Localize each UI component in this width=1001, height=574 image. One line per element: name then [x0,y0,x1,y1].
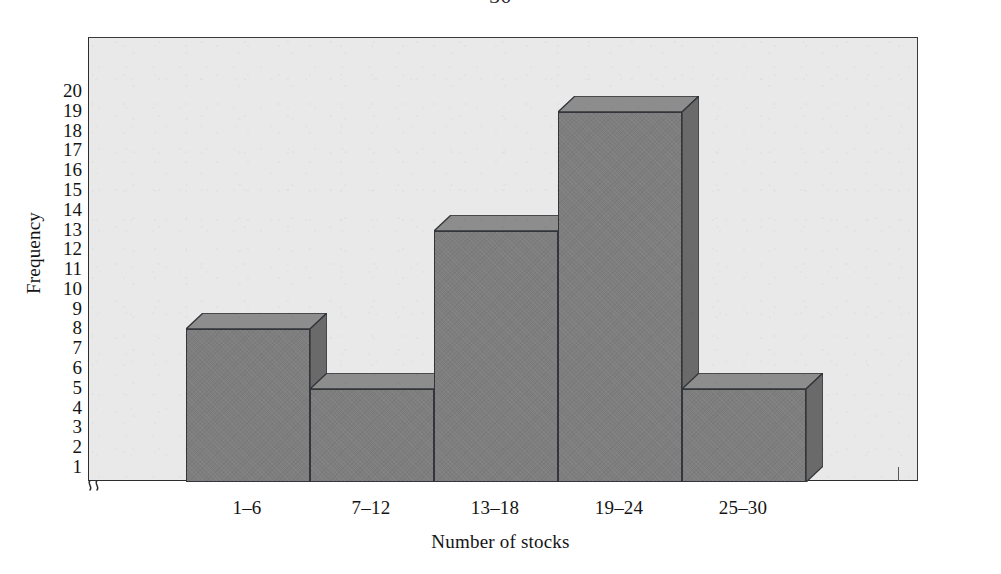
y-axis-tick-label: 1 [46,457,82,476]
y-axis-tick-label: 20 [46,81,82,100]
x-axis-tick-label: 13–18 [435,497,555,519]
y-axis-tick-label: 3 [46,417,82,436]
y-axis-tick-label: 15 [46,180,82,199]
plot-area [88,37,918,481]
bar-front-face [558,112,682,482]
y-axis-tick-label: 16 [46,160,82,179]
y-axis-tick-label: 8 [46,318,82,337]
y-axis-tick-label: 6 [46,358,82,377]
y-axis-tick-label: 17 [46,140,82,159]
y-axis-tick-label: 18 [46,121,82,140]
histogram-bar [682,373,823,482]
bar-front-face [186,329,310,482]
y-axis-tick-label: 19 [46,101,82,120]
y-axis-tick-label: 13 [46,220,82,239]
histogram-bar [310,373,451,482]
x-axis-tick-label: 7–12 [311,497,431,519]
y-axis-tick-label: 5 [46,378,82,397]
x-axis-tick-label: 1–6 [187,497,307,519]
y-axis-tick-label: 2 [46,437,82,456]
histogram-bar [434,215,575,482]
x-axis-tick-right [898,467,899,481]
y-axis-tick-label: 9 [46,299,82,318]
histogram-figure: Frequency 201918171615141312111098765432… [0,0,1001,574]
bar-front-face [682,389,806,482]
histogram-bar [186,313,327,482]
y-axis-tick-label: 11 [46,259,82,278]
bar-front-face [434,231,558,482]
histogram-bar [558,96,699,482]
x-axis-tick-label: 25–30 [683,497,803,519]
y-axis-tick-label: 12 [46,239,82,258]
y-axis-tick-labels: 2019181716151413121110987654321 [38,0,82,574]
y-axis-tick-label: 10 [46,279,82,298]
x-axis-title: Number of stocks [0,531,1001,553]
y-axis-tick-label: 14 [46,200,82,219]
y-axis-tick-label: 4 [46,398,82,417]
bars-container [89,38,919,482]
bar-front-face [310,389,434,482]
y-axis-tick-label: 7 [46,338,82,357]
x-axis-tick-label: 19–24 [559,497,679,519]
